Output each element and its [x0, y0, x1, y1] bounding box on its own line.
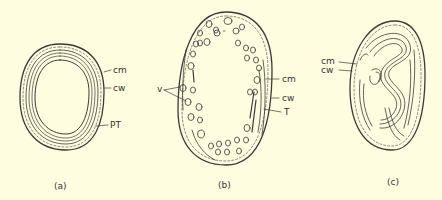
label-b-cw: cw: [282, 94, 294, 103]
label-a-cm: cm: [113, 66, 127, 75]
label-a-pt: PT: [110, 121, 121, 130]
caption-b: (b): [218, 181, 231, 190]
diagram-canvas: [0, 0, 442, 200]
panel-a-cell: [20, 44, 111, 150]
caption-c: (c): [387, 178, 399, 187]
panel-c-cell: [339, 21, 425, 150]
label-c-cw: cw: [321, 66, 333, 75]
label-b-t: T: [284, 108, 290, 117]
label-a-cw: cw: [113, 84, 125, 93]
caption-a: (a): [54, 182, 67, 191]
label-b-v: v: [157, 85, 162, 94]
panel-b-cell: [164, 12, 281, 165]
label-b-cm: cm: [282, 75, 296, 84]
